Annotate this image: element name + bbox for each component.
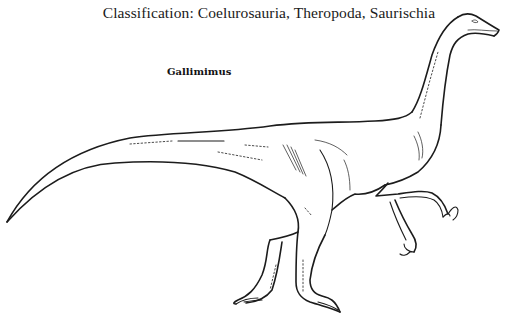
thigh-muscle-line xyxy=(320,150,333,235)
left-leg-outline xyxy=(234,240,270,304)
tail-dot-marks xyxy=(130,141,172,144)
second-arm-outline xyxy=(395,200,416,252)
arm-lower-outline xyxy=(400,197,443,217)
tail-lower-outline xyxy=(7,162,285,222)
hip-line xyxy=(315,140,347,155)
thigh-scale-marks xyxy=(305,208,312,216)
second-hand-claws xyxy=(400,244,414,255)
chest-outline xyxy=(385,125,441,185)
right-leg-back xyxy=(310,235,340,312)
tail-scale-marks xyxy=(218,152,262,160)
neck-back-outline xyxy=(412,17,458,112)
belly-outline xyxy=(332,185,385,210)
shoulder-line xyxy=(344,160,350,190)
flank-shading xyxy=(283,145,306,176)
left-leg-back xyxy=(246,242,282,303)
eye xyxy=(472,20,478,23)
rear-thigh-outline xyxy=(270,198,298,240)
neck-front-outline xyxy=(441,33,494,125)
back-scale-marks xyxy=(245,145,268,147)
coloring-page: Classification: Coelurosauria, Theropoda… xyxy=(0,0,506,316)
gallimimus-illustration xyxy=(0,0,506,316)
throat-folds xyxy=(414,132,423,160)
mouth-line xyxy=(468,30,497,31)
arm-upper-outline xyxy=(376,183,448,214)
